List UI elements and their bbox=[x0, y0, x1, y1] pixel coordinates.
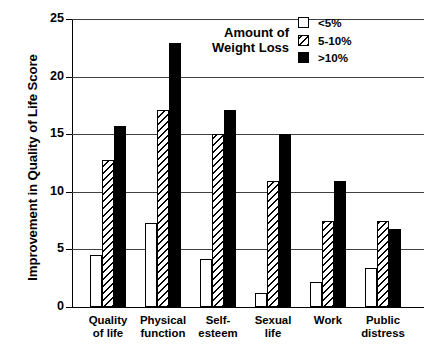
bar bbox=[169, 43, 181, 307]
legend-title: Amount of Weight Loss bbox=[212, 25, 289, 56]
legend-swatch-white bbox=[298, 17, 309, 28]
bar bbox=[114, 126, 126, 307]
y-tick-label-0: 0 bbox=[16, 299, 64, 313]
legend-swatch-black bbox=[298, 52, 309, 63]
bar bbox=[279, 134, 291, 307]
y-tick-mark-25 bbox=[66, 19, 72, 20]
y-axis-title: Improvement in Quality of Life Score bbox=[25, 18, 40, 318]
bar bbox=[310, 282, 322, 307]
bar bbox=[255, 293, 267, 307]
y-tick-label-10: 10 bbox=[16, 184, 64, 198]
x-axis-label-line: distress bbox=[340, 327, 426, 340]
bar bbox=[90, 255, 102, 307]
bar bbox=[322, 221, 334, 307]
bar-chart: Improvement in Quality of Life Score 051… bbox=[0, 0, 432, 358]
bar bbox=[224, 110, 236, 307]
y-tick-label-25: 25 bbox=[16, 11, 64, 25]
legend-item: 5-10% bbox=[298, 34, 352, 47]
gridline-20 bbox=[72, 77, 424, 78]
y-tick-mark-5 bbox=[66, 249, 72, 250]
legend-label: >10% bbox=[318, 51, 348, 64]
y-tick-mark-10 bbox=[66, 192, 72, 193]
x-axis-label-line: Public bbox=[340, 314, 426, 327]
y-tick-mark-15 bbox=[66, 134, 72, 135]
legend: Amount of Weight Loss <5%5-10%>10% bbox=[212, 16, 352, 64]
y-tick-mark-0 bbox=[66, 307, 72, 308]
bar bbox=[389, 229, 401, 307]
x-axis-line bbox=[72, 307, 424, 308]
x-axis-label: Publicdistress bbox=[340, 314, 426, 339]
legend-title-line2: Weight Loss bbox=[212, 40, 289, 56]
y-tick-label-15: 15 bbox=[16, 126, 64, 140]
y-tick-label-20: 20 bbox=[16, 69, 64, 83]
bar bbox=[365, 268, 377, 307]
bar bbox=[267, 181, 279, 307]
bar bbox=[212, 134, 224, 307]
y-tick-label-5: 5 bbox=[16, 241, 64, 255]
bar bbox=[157, 110, 169, 307]
bar bbox=[334, 181, 346, 307]
legend-title-line1: Amount of bbox=[212, 25, 289, 41]
bar bbox=[102, 160, 114, 307]
bar bbox=[377, 221, 389, 307]
legend-item: <5% bbox=[298, 16, 352, 29]
bar bbox=[200, 259, 212, 307]
x-axis-label-line: life bbox=[230, 327, 316, 340]
legend-item: >10% bbox=[298, 51, 352, 64]
legend-swatch-hatch bbox=[298, 35, 309, 46]
legend-label: 5-10% bbox=[318, 34, 352, 47]
y-tick-mark-20 bbox=[66, 77, 72, 78]
bar bbox=[145, 223, 157, 307]
legend-label: <5% bbox=[318, 16, 342, 29]
legend-entries: <5%5-10%>10% bbox=[298, 16, 352, 64]
